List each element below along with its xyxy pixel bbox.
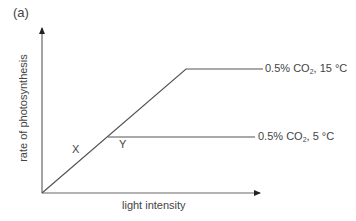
region-label-y: Y — [119, 138, 126, 150]
y-axis-label: rate of photosynthesis — [17, 54, 29, 162]
plot-area — [0, 0, 356, 221]
curve-15c — [42, 69, 263, 193]
region-label-x: X — [72, 143, 79, 155]
photosynthesis-graph: (a) rate of photosynthesis light intensi… — [0, 0, 356, 221]
x-axis-label: light intensity — [122, 199, 186, 211]
series-label-5c: 0.5% CO2, 5 °C — [258, 130, 334, 143]
series-label-15c: 0.5% CO2, 15 °C — [265, 62, 347, 75]
